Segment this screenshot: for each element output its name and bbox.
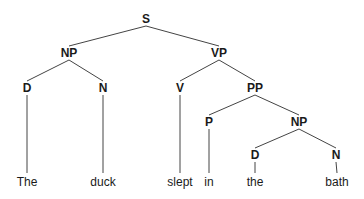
edge-NP1-N1 — [69, 60, 103, 81]
edge-VP-V — [180, 60, 219, 81]
node-n1: N — [99, 81, 108, 95]
edge-NP2-D2 — [255, 129, 299, 148]
leaf-word-duck: duck — [90, 175, 116, 189]
leaf-word-slept: slept — [167, 175, 193, 189]
node-n2: N — [332, 148, 341, 162]
leaf-word-the: The — [17, 175, 38, 189]
edge-PP-P — [209, 95, 255, 115]
edge-S-NP1 — [69, 26, 146, 46]
leaf-word-in: in — [204, 175, 213, 189]
edge-NP1-D1 — [27, 60, 69, 81]
node-d1: D — [23, 81, 32, 95]
edge-VP-PP — [219, 60, 255, 81]
edge-N2-w6 — [336, 162, 337, 173]
edge-NP2-N2 — [299, 129, 336, 148]
tree-leaves: Theducksleptinthebath — [17, 175, 349, 189]
tree-nodes: SNPVPDNVPPPNPDN — [23, 12, 341, 162]
node-p: P — [205, 115, 213, 129]
syntax-tree: SNPVPDNVPPPNPDN Theducksleptinthebath — [0, 0, 364, 199]
node-vp: VP — [211, 46, 227, 60]
leaf-word-the: the — [247, 175, 264, 189]
edge-PP-NP2 — [255, 95, 299, 115]
edge-S-VP — [146, 26, 219, 46]
node-d2: D — [251, 148, 260, 162]
node-s: S — [142, 12, 150, 26]
leaf-word-bath: bath — [325, 175, 348, 189]
node-pp: PP — [247, 81, 263, 95]
node-np1: NP — [61, 46, 78, 60]
node-v: V — [176, 81, 184, 95]
node-np2: NP — [291, 115, 308, 129]
